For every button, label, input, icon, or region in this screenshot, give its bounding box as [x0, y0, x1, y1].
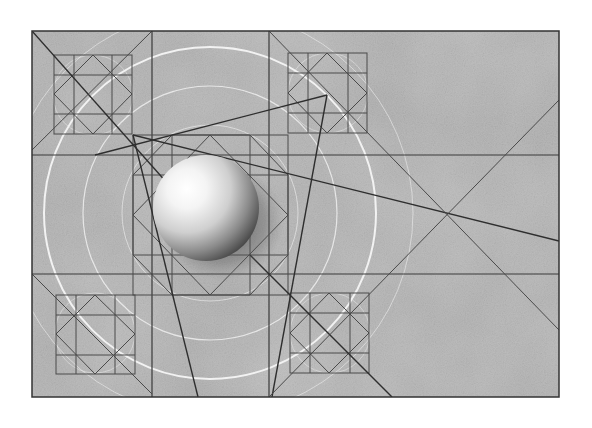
geometric-sphere-illustration — [0, 0, 592, 428]
